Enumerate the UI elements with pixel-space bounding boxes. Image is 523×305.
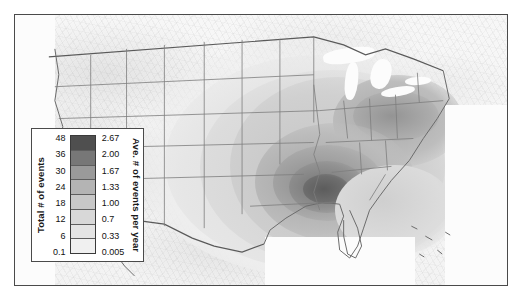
legend-right-value-3: 1.33	[102, 183, 120, 192]
coastline-florida	[344, 210, 362, 258]
legend-right-value-2: 1.67	[102, 167, 120, 176]
legend-left-value-5: 12	[55, 215, 65, 224]
border-us-canada	[49, 37, 443, 71]
legend-right-value-6: 0.33	[102, 232, 120, 241]
state-line-e2	[326, 138, 414, 142]
legend-left-values: 48 36 30 24 18 12 6 0.1	[47, 129, 67, 261]
state-line-h5	[250, 202, 334, 206]
legend-left-value-6: 6	[60, 232, 65, 241]
legend-left-value-3: 24	[55, 183, 65, 192]
state-line-h2	[59, 111, 320, 119]
coastline-atlantic	[264, 71, 449, 258]
legend-left-axis-title: Total # of events	[34, 129, 47, 261]
legend-left-value-7: 0.1	[53, 248, 66, 257]
legend-right-axis-title: Ave. # of events per year	[129, 129, 143, 261]
legend-right-value-5: 0.7	[102, 215, 115, 224]
state-line-e10	[370, 174, 386, 200]
legend-left-value-4: 18	[55, 199, 65, 208]
legend-swatch-7	[71, 239, 94, 253]
legend-swatch-5	[71, 210, 94, 225]
state-line-e5	[370, 99, 372, 141]
legend-swatch-0	[71, 136, 94, 151]
legend-left-value-1: 36	[55, 150, 65, 159]
figure-container: Total # of events 48 36 30 24 18 12 6 0.…	[0, 0, 523, 305]
legend-color-ramp	[70, 135, 95, 254]
legend-right-value-7: 0.005	[102, 248, 125, 257]
legend-swatch-1	[71, 151, 94, 166]
legend-swatch-4	[71, 195, 94, 210]
legend-swatch-6	[71, 225, 94, 240]
legend-right-values: 2.67 2.00 1.67 1.33 1.00 0.7 0.33 0.005	[100, 129, 129, 261]
map-legend: Total # of events 48 36 30 24 18 12 6 0.…	[31, 128, 144, 262]
islands-bahamas	[411, 226, 450, 257]
river-mississippi	[314, 135, 320, 211]
legend-left-value-0: 48	[55, 134, 65, 143]
legend-right-value-4: 1.00	[102, 199, 120, 208]
state-line-h1	[55, 75, 314, 87]
state-line-e8	[385, 140, 387, 170]
state-line-mississippi	[314, 85, 320, 135]
legend-right-value-1: 2.00	[102, 150, 120, 159]
legend-right-value-0: 2.67	[102, 134, 120, 143]
state-line-e9	[417, 73, 419, 103]
state-line-e1	[320, 101, 443, 111]
state-line-e4	[344, 101, 348, 139]
legend-swatch-2	[71, 166, 94, 181]
legend-swatch-3	[71, 180, 94, 195]
state-line-e6	[395, 95, 397, 139]
legend-left-value-2: 30	[55, 167, 65, 176]
